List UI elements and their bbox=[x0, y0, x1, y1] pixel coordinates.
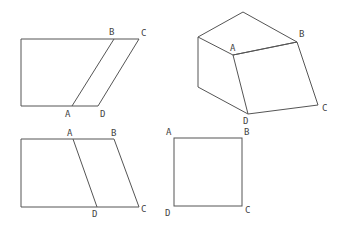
label-c: C bbox=[245, 205, 250, 215]
outline bbox=[21, 139, 139, 207]
label-b: B bbox=[244, 127, 249, 137]
label-a: A bbox=[65, 109, 71, 119]
figure-square: A B C D bbox=[165, 127, 250, 218]
left-face-edges bbox=[198, 37, 248, 114]
figure-parallelogram-top: B C A D bbox=[21, 27, 146, 119]
label-a: A bbox=[67, 128, 73, 138]
geometry-diagram: B C A D A B C D A B C D A B C D bbox=[0, 0, 347, 232]
label-c: C bbox=[141, 204, 146, 214]
label-b: B bbox=[299, 29, 304, 39]
figure-parallelogram-bottom: A B C D bbox=[21, 128, 146, 219]
figure-prism-3d: A B C D bbox=[198, 12, 327, 126]
front-face bbox=[233, 42, 318, 114]
label-c: C bbox=[322, 103, 327, 113]
label-c: C bbox=[141, 28, 146, 38]
label-b: B bbox=[111, 128, 116, 138]
label-a: A bbox=[230, 43, 236, 53]
square-outline bbox=[174, 138, 242, 206]
label-a: A bbox=[166, 127, 172, 137]
label-d: D bbox=[243, 116, 248, 126]
top-face bbox=[198, 12, 297, 55]
label-d: D bbox=[100, 109, 105, 119]
outline bbox=[21, 39, 139, 106]
label-d: D bbox=[165, 208, 170, 218]
label-b: B bbox=[109, 27, 114, 37]
line-ab bbox=[72, 39, 114, 106]
label-d: D bbox=[92, 209, 97, 219]
line-ad bbox=[73, 139, 97, 207]
